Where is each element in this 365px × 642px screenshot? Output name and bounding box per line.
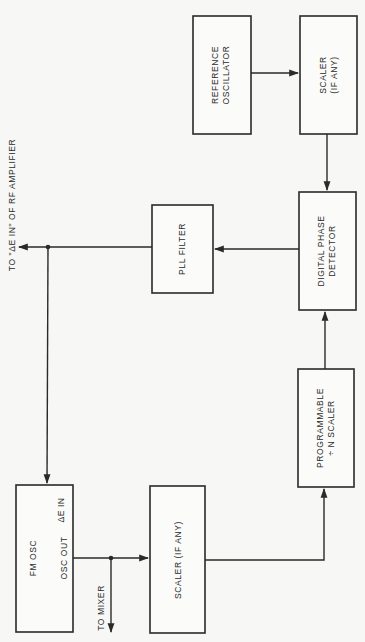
- fm-osc-block: FM OSC ΔE IN OSC OUT: [16, 485, 73, 632]
- reference-oscillator-line1: REFERENCE: [210, 46, 220, 104]
- rf-amplifier-label: TO "ΔE IN" OF RF AMPLIFIER: [7, 139, 17, 271]
- arrow-scaler-to-progscaler: [205, 489, 324, 560]
- scaler-top-line2: (IF ANY): [329, 56, 339, 93]
- scaler-top-line1: SCALER: [318, 56, 328, 94]
- scaler-top-block: SCALER (IF ANY): [300, 16, 357, 134]
- arrow-junction-to-fmosc: [47, 247, 48, 483]
- progscaler-line2: ÷ N SCALER: [326, 400, 336, 456]
- mixer-label: TO MIXER: [96, 585, 106, 631]
- detector-line2: DETECTOR: [327, 225, 337, 276]
- digital-phase-detector-block: DIGITAL PHASE DETECTOR: [299, 192, 356, 310]
- reference-oscillator-block: REFERENCE OSCILLATOR: [193, 16, 251, 134]
- detector-line1: DIGITAL PHASE: [316, 215, 326, 286]
- scaler-bottom-block: SCALER (IF ANY): [150, 486, 205, 633]
- fm-osc-port-in: ΔE IN: [56, 497, 66, 522]
- pll-block-diagram: REFERENCE OSCILLATOR SCALER (IF ANY) DIG…: [0, 0, 365, 642]
- pll-filter-label: PLL FILTER: [177, 223, 187, 275]
- reference-oscillator-line2: OSCILLATOR: [221, 45, 231, 104]
- scaler-bottom-label: SCALER (IF ANY): [173, 521, 183, 599]
- progscaler-line1: PROGRAMMABLE: [315, 388, 325, 468]
- programmable-scaler-block: PROGRAMMABLE ÷ N SCALER: [298, 369, 354, 487]
- pll-filter-block: PLL FILTER: [152, 205, 213, 293]
- fm-osc-label: FM OSC: [28, 540, 38, 577]
- fm-osc-port-out: OSC OUT: [59, 537, 69, 580]
